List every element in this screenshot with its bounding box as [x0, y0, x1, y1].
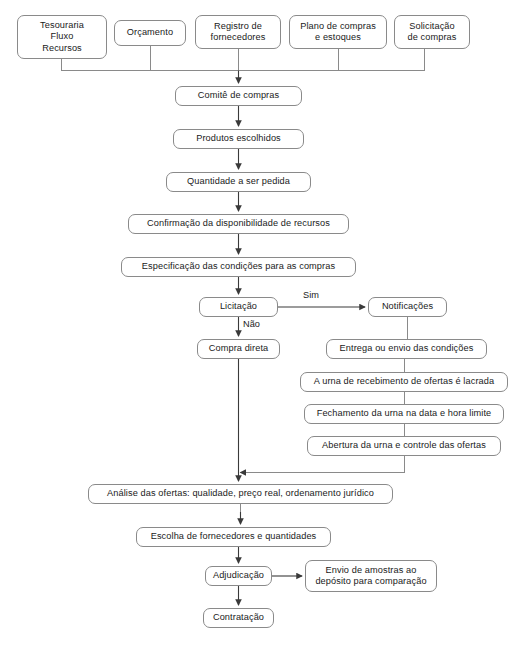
edge-label-nao: Não [243, 319, 260, 329]
wire-abertura-analise-elbow [241, 456, 405, 473]
node-fechamento-urna[interactable]: Fechamento da urna na data e hora limite [304, 404, 504, 424]
node-quantidade-pedida[interactable]: Quantidade a ser pedida [166, 172, 311, 192]
node-analise-ofertas[interactable]: Análise das ofertas: qualidade, preço re… [88, 484, 393, 504]
node-entrega-envio-condicoes[interactable]: Entrega ou envio das condições [326, 339, 487, 359]
node-licitacao[interactable]: Licitação [199, 297, 278, 317]
node-comite-compras[interactable]: Comitê de compras [175, 86, 302, 106]
node-envio-amostras[interactable]: Envio de amostras ao depósito para compa… [305, 560, 437, 592]
node-escolha-fornecedores[interactable]: Escolha de fornecedores e quantidades [136, 527, 331, 547]
edge-label-sim: Sim [303, 290, 319, 300]
node-urna-lacrada[interactable]: A urna de recebimento de ofertas é lacra… [300, 372, 508, 392]
node-tesouraria[interactable]: Tesouraria Fluxo Recursos [17, 15, 107, 59]
node-notificacoes[interactable]: Notificações [368, 297, 447, 317]
node-registro-fornecedores[interactable]: Registro de fornecedores [195, 15, 281, 49]
node-plano-compras-estoques[interactable]: Plano de compras e estoques [289, 15, 387, 49]
node-compra-direta[interactable]: Compra direta [197, 339, 280, 359]
node-especificacao-condicoes[interactable]: Especificação das condições para as comp… [121, 257, 356, 277]
node-confirmacao-recursos[interactable]: Confirmação da disponibilidade de recurs… [128, 214, 349, 234]
node-orcamento[interactable]: Orçamento [114, 20, 186, 46]
node-abertura-urna[interactable]: Abertura da urna e controle das ofertas [307, 436, 501, 456]
node-adjudicacao[interactable]: Adjudicação [205, 566, 272, 586]
node-produtos-escolhidos[interactable]: Produtos escolhidos [173, 129, 304, 149]
node-contratacao[interactable]: Contratação [203, 608, 274, 628]
flowchart-canvas: Tesouraria Fluxo Recursos Orçamento Regi… [0, 0, 527, 645]
node-solicitacao-compras[interactable]: Solicitação de compras [394, 15, 470, 49]
